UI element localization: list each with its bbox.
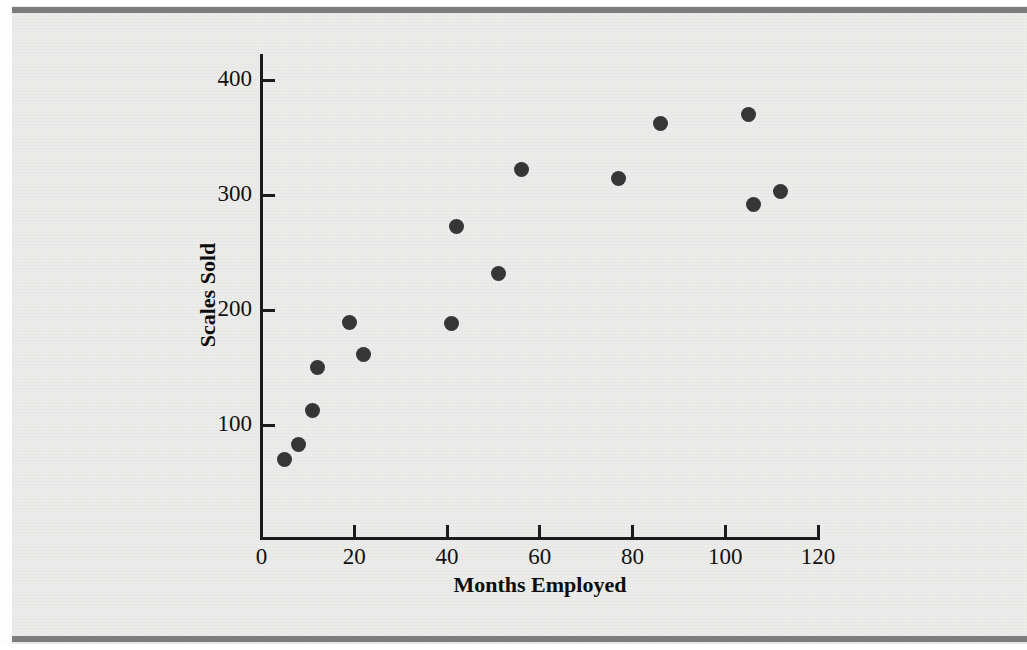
- scatter-plot-figure: 100200300400 020406080100120 Months Empl…: [0, 0, 1027, 650]
- scatter-point: [305, 403, 320, 418]
- scatter-point: [277, 452, 292, 467]
- x-tick-mark: [724, 525, 727, 537]
- scatter-point: [291, 437, 306, 452]
- scatter-point: [449, 219, 464, 234]
- x-tick-label: 40: [417, 544, 477, 570]
- y-tick-mark: [263, 424, 275, 427]
- scatter-point: [514, 162, 529, 177]
- y-tick-label: 100: [192, 411, 252, 437]
- scatter-point: [741, 107, 756, 122]
- x-tick-label: 0: [232, 544, 292, 570]
- scatter-point: [444, 316, 459, 331]
- scatter-point: [356, 347, 371, 362]
- y-tick-mark: [263, 194, 275, 197]
- scatter-point: [342, 315, 357, 330]
- x-tick-mark: [353, 525, 356, 537]
- x-tick-label: 60: [510, 544, 570, 570]
- y-tick-mark: [263, 79, 275, 82]
- y-axis-line: [260, 54, 263, 540]
- x-tick-mark: [446, 525, 449, 537]
- x-tick-mark: [817, 525, 820, 537]
- y-axis-title: Scales Sold: [195, 195, 221, 395]
- scatter-point: [773, 184, 788, 199]
- x-axis-line: [260, 537, 820, 540]
- scatter-point: [653, 116, 668, 131]
- y-tick-label: 400: [192, 66, 252, 92]
- scatter-point: [746, 197, 761, 212]
- y-tick-mark: [263, 309, 275, 312]
- x-tick-mark: [538, 525, 541, 537]
- x-axis-title: Months Employed: [260, 572, 820, 598]
- x-tick-label: 100: [695, 544, 755, 570]
- scatter-point: [310, 360, 325, 375]
- x-tick-label: 20: [324, 544, 384, 570]
- scatter-point: [491, 266, 506, 281]
- scatter-point: [611, 171, 626, 186]
- x-tick-label: 120: [788, 544, 848, 570]
- x-tick-mark: [631, 525, 634, 537]
- plot-area: 100200300400 020406080100120 Months Empl…: [0, 0, 1027, 650]
- x-tick-label: 80: [603, 544, 663, 570]
